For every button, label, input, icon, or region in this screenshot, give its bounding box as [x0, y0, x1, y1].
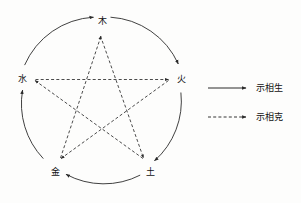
node-label-fire: 火 [177, 74, 186, 84]
edge-wood-to-earth [101, 36, 144, 158]
legend-label-overcoming: 示相克 [256, 111, 283, 122]
diagram-canvas: 木 火 土 金 水 示相生 示相克 [0, 0, 301, 203]
edge-earth-to-metal [66, 174, 140, 184]
legend-item-generating: 示相生 [208, 82, 283, 93]
generating-cycle-group [21, 17, 181, 184]
legend: 示相生 示相克 [208, 82, 283, 122]
wuxing-diagram: 木 火 土 金 水 示相生 示相克 [0, 0, 301, 203]
legend-item-overcoming: 示相克 [208, 111, 283, 122]
node-label-water: 水 [18, 73, 27, 84]
node-label-wood: 木 [98, 15, 107, 26]
node-label-earth: 土 [146, 166, 155, 177]
edge-wood-to-fire [111, 17, 179, 64]
legend-label-generating: 示相生 [256, 82, 283, 93]
edge-earth-to-water [35, 81, 143, 159]
edge-fire-to-earth [155, 93, 182, 161]
edge-metal-to-water [21, 90, 43, 159]
edge-fire-to-metal [61, 81, 169, 159]
edge-metal-to-wood [61, 36, 102, 158]
edge-water-to-wood [25, 17, 94, 65]
node-label-metal: 金 [51, 166, 60, 177]
overcoming-cycle-group [35, 36, 169, 159]
